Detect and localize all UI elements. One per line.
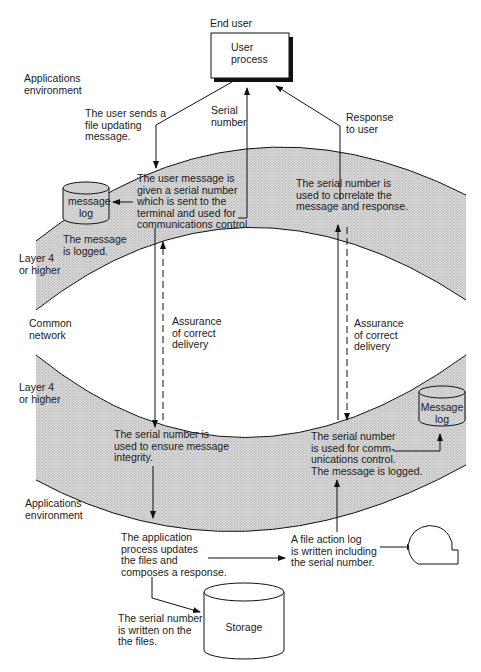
note-user-message-given: The user message is given a serial numbe… [137,173,250,231]
zone-apps-env-bottom: Applications environment [25,498,83,521]
note-file-action-log: A file action log is written including t… [291,534,377,569]
end-user-label: End user [210,18,252,30]
note-response-to-user: Response to user [346,112,393,135]
storage-label: Storage [214,622,274,634]
message-log-bottom-label: Message log [420,402,464,425]
zone-layer4-bottom: Layer 4 or higher [19,382,60,405]
note-written-on-files: The serial number is written on the the … [118,613,203,648]
zone-common-network: Common network [29,318,72,341]
note-user-sends: The user sends a file updating message. [85,108,166,143]
note-app-updates: The application process updates the file… [121,532,227,578]
note-message-logged-top: The message is logged. [63,234,127,257]
note-serial-number: Serial number [211,105,247,128]
note-ensure-integrity: The serial number is used to ensure mess… [114,429,229,464]
user-process-label: User process [231,42,268,65]
message-log-top-label: message log [68,196,104,219]
layer4-top-band [36,147,466,310]
note-assurance-right: Assurance of correct delivery [354,318,404,353]
file-action-log-icon [408,526,458,564]
note-comm-control-bottom: The serial number is used for comm- unic… [311,431,422,477]
diagram-canvas [0,0,481,672]
note-assurance-left: Assurance of correct delivery [172,316,222,351]
zone-layer4-top: Layer 4 or higher [19,253,60,276]
note-correlate: The serial number is used to correlate t… [296,178,408,213]
zone-apps-env-top: Applications environment [24,73,82,96]
